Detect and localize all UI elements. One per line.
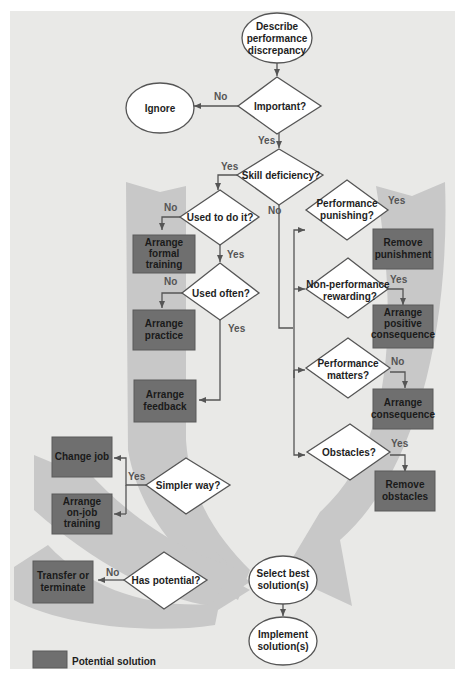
svg-text:obstacles: obstacles bbox=[382, 491, 429, 502]
svg-text:No: No bbox=[106, 567, 119, 578]
svg-text:Arrange: Arrange bbox=[63, 496, 102, 507]
svg-text:Yes: Yes bbox=[388, 195, 406, 206]
svg-text:Select best: Select best bbox=[257, 568, 310, 579]
svg-text:Obstacles?: Obstacles? bbox=[322, 447, 376, 458]
svg-text:training: training bbox=[146, 259, 183, 270]
svg-text:feedback: feedback bbox=[143, 401, 187, 412]
svg-text:Used often?: Used often? bbox=[192, 288, 250, 299]
svg-text:performance: performance bbox=[247, 33, 308, 44]
svg-text:solution(s): solution(s) bbox=[257, 580, 308, 591]
svg-text:training: training bbox=[64, 518, 101, 529]
solution-onjob-training: Arrange on-job training bbox=[52, 494, 112, 534]
solution-positive-consequence: Arrange positive consequence bbox=[371, 305, 435, 348]
svg-text:solution(s): solution(s) bbox=[257, 641, 308, 652]
flowchart-svg: Describe performance discrepancy Ignore … bbox=[0, 0, 463, 682]
svg-text:punishment: punishment bbox=[375, 249, 432, 260]
svg-text:No: No bbox=[391, 356, 404, 367]
svg-text:consequence: consequence bbox=[371, 329, 435, 340]
svg-text:Arrange: Arrange bbox=[146, 389, 185, 400]
solution-transfer-terminate: Transfer or terminate bbox=[33, 561, 93, 603]
svg-text:Has potential?: Has potential? bbox=[132, 575, 201, 586]
decision-important: Important? bbox=[238, 77, 321, 134]
decision-skill-deficiency: Skill deficiency? bbox=[237, 149, 323, 205]
svg-text:formal: formal bbox=[149, 248, 180, 259]
solution-practice: Arrange practice bbox=[133, 310, 195, 350]
svg-text:Change job: Change job bbox=[55, 451, 109, 462]
svg-text:punishing?: punishing? bbox=[320, 210, 374, 221]
terminal-start: Describe performance discrepancy bbox=[242, 13, 312, 63]
svg-text:Arrange: Arrange bbox=[145, 318, 184, 329]
svg-text:practice: practice bbox=[145, 330, 184, 341]
svg-text:matters?: matters? bbox=[327, 370, 369, 381]
svg-text:Remove: Remove bbox=[384, 237, 423, 248]
svg-text:Yes: Yes bbox=[391, 438, 409, 449]
svg-text:Yes: Yes bbox=[227, 249, 245, 260]
flowchart-canvas: Describe performance discrepancy Ignore … bbox=[0, 0, 463, 682]
svg-text:rewarding?: rewarding? bbox=[323, 291, 377, 302]
svg-text:positive: positive bbox=[384, 318, 422, 329]
svg-text:Yes: Yes bbox=[221, 161, 239, 172]
solution-formal-training: Arrange formal training bbox=[133, 235, 195, 273]
terminal-ignore: Ignore bbox=[126, 83, 194, 133]
svg-text:Yes: Yes bbox=[228, 323, 246, 334]
legend-swatch bbox=[33, 651, 67, 668]
svg-text:Arrange: Arrange bbox=[384, 397, 423, 408]
svg-text:Yes: Yes bbox=[128, 471, 146, 482]
legend-label: Potential solution bbox=[72, 656, 156, 667]
svg-text:No: No bbox=[164, 202, 177, 213]
solution-consequence: Arrange consequence bbox=[371, 389, 435, 429]
svg-text:Arrange: Arrange bbox=[145, 237, 184, 248]
solution-remove-punishment: Remove punishment bbox=[373, 229, 433, 269]
svg-text:discrepancy: discrepancy bbox=[248, 45, 307, 56]
legend: Potential solution bbox=[33, 651, 156, 668]
svg-text:Transfer or: Transfer or bbox=[37, 570, 89, 581]
svg-text:terminate: terminate bbox=[40, 582, 85, 593]
svg-text:No: No bbox=[268, 205, 281, 216]
svg-text:Ignore: Ignore bbox=[145, 103, 176, 114]
svg-text:on-job: on-job bbox=[67, 507, 98, 518]
svg-text:Performance: Performance bbox=[317, 358, 379, 369]
svg-text:Remove: Remove bbox=[386, 479, 425, 490]
svg-text:Simpler way?: Simpler way? bbox=[156, 480, 220, 491]
terminal-implement: Implement solution(s) bbox=[249, 617, 317, 665]
svg-text:No: No bbox=[214, 91, 227, 102]
svg-text:Skill deficiency?: Skill deficiency? bbox=[242, 170, 320, 181]
svg-text:Used to do it?: Used to do it? bbox=[187, 212, 254, 223]
svg-text:Non-performance: Non-performance bbox=[306, 279, 390, 290]
solution-feedback: Arrange feedback bbox=[134, 380, 196, 422]
solution-remove-obstacles: Remove obstacles bbox=[375, 471, 435, 511]
svg-text:Yes: Yes bbox=[390, 274, 408, 285]
svg-text:Implement: Implement bbox=[258, 629, 309, 640]
svg-text:consequence: consequence bbox=[371, 409, 435, 420]
svg-text:Performance: Performance bbox=[316, 198, 378, 209]
svg-text:No: No bbox=[164, 276, 177, 287]
solution-change-job: Change job bbox=[52, 437, 112, 477]
svg-text:Important?: Important? bbox=[254, 101, 306, 112]
svg-text:Describe: Describe bbox=[256, 21, 299, 32]
terminal-select: Select best solution(s) bbox=[249, 556, 317, 604]
svg-text:Yes: Yes bbox=[258, 135, 276, 146]
svg-text:Arrange: Arrange bbox=[384, 307, 423, 318]
